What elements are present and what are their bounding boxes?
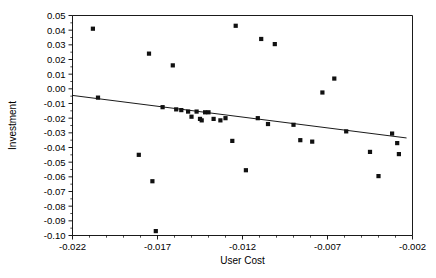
y-tick-label-15: -0.10 xyxy=(44,230,66,241)
y-tick-label-0: 0.05 xyxy=(47,10,66,21)
data-point xyxy=(234,24,238,28)
data-point xyxy=(154,229,158,233)
data-point xyxy=(395,141,399,145)
data-point xyxy=(368,150,372,154)
data-point xyxy=(218,118,222,122)
data-point xyxy=(244,168,248,172)
regression-line xyxy=(73,95,407,138)
y-axis-title: Investment xyxy=(7,101,18,150)
y-tick-label-13: -0.08 xyxy=(44,201,66,212)
y-tick-label-11: -0.06 xyxy=(44,171,66,182)
data-point xyxy=(320,90,324,94)
y-tick-label-5: 0.00 xyxy=(47,83,66,94)
y-tick-label-9: -0.04 xyxy=(44,142,66,153)
x-tick-label-0: -0.022 xyxy=(59,241,86,252)
data-point xyxy=(96,96,100,100)
data-point xyxy=(397,152,401,156)
y-tick-label-10: -0.05 xyxy=(44,157,66,168)
data-point xyxy=(298,138,302,142)
y-tick-label-8: -0.03 xyxy=(44,127,66,138)
data-point xyxy=(266,122,270,126)
x-tick-label-4: -0.002 xyxy=(399,241,426,252)
data-point xyxy=(376,174,380,178)
data-point xyxy=(310,140,314,144)
data-point xyxy=(344,129,348,133)
data-point xyxy=(150,179,154,183)
data-point xyxy=(332,76,336,80)
x-tick-label-3: -0.007 xyxy=(314,241,341,252)
data-point xyxy=(161,105,165,109)
data-point xyxy=(259,37,263,41)
x-tick-label-1: -0.017 xyxy=(144,241,171,252)
data-point xyxy=(171,63,175,67)
data-point xyxy=(273,42,277,46)
y-tick-label-4: 0.01 xyxy=(47,69,66,80)
data-point xyxy=(189,115,193,119)
data-point xyxy=(212,117,216,121)
data-point xyxy=(179,108,183,112)
data-point xyxy=(91,27,95,31)
data-point xyxy=(206,110,210,114)
y-tick-label-14: -0.09 xyxy=(44,215,66,226)
x-axis-title: User Cost xyxy=(220,255,265,266)
data-point xyxy=(174,107,178,111)
data-point xyxy=(186,109,190,113)
y-tick-label-12: -0.07 xyxy=(44,186,66,197)
x-tick-label-2: -0.012 xyxy=(229,241,256,252)
y-tick-label-2: 0.03 xyxy=(47,39,66,50)
y-tick-label-7: -0.02 xyxy=(44,113,66,124)
y-tick-label-6: -0.01 xyxy=(44,98,66,109)
chart-canvas: 0.050.040.030.020.010.00-0.01-0.02-0.03-… xyxy=(0,0,436,278)
data-point xyxy=(230,139,234,143)
plot-frame xyxy=(73,16,413,236)
data-point xyxy=(256,116,260,120)
data-point xyxy=(223,116,227,120)
data-point xyxy=(390,131,394,135)
data-point xyxy=(137,153,141,157)
scatter-plot-figure: 0.050.040.030.020.010.00-0.01-0.02-0.03-… xyxy=(0,0,436,278)
y-tick-label-3: 0.02 xyxy=(47,54,66,65)
data-point xyxy=(200,118,204,122)
data-point xyxy=(291,123,295,127)
data-point xyxy=(195,109,199,113)
data-point xyxy=(147,52,151,56)
y-tick-label-1: 0.04 xyxy=(47,25,66,36)
